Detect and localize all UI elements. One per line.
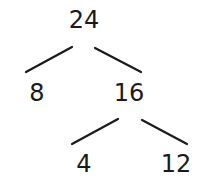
node-right-left: 4 bbox=[76, 150, 91, 178]
edge-right-left bbox=[72, 119, 118, 144]
node-left: 8 bbox=[29, 79, 44, 107]
edge-right-right bbox=[142, 120, 187, 144]
node-right-right: 12 bbox=[161, 150, 192, 178]
factor-tree-diagram: 24 8 16 4 12 bbox=[0, 0, 197, 184]
node-root: 24 bbox=[69, 6, 100, 34]
node-right: 16 bbox=[114, 79, 145, 107]
edge-root-left bbox=[26, 47, 72, 72]
edge-root-right bbox=[95, 48, 141, 72]
